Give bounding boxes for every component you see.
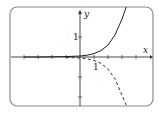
y-axis-arrow-icon [78,10,82,14]
y-axis-label: y [83,9,90,19]
x-tick-label-1: 1 [93,62,99,72]
y-tick-label-1: 1 [73,32,79,42]
graph: y x 1 1 [0,0,160,114]
x-axis-label: x [143,45,148,55]
